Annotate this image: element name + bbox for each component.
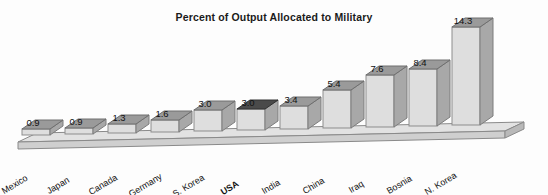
bar-value-label: 5.4 — [317, 78, 351, 89]
bar-value-label: 7.6 — [360, 63, 394, 74]
bar-value-label: 8.4 — [403, 57, 437, 68]
bar-side-face — [480, 18, 493, 125]
chart-container: Percent of Output Allocated to Military … — [0, 0, 548, 195]
bar-front-face — [452, 27, 480, 125]
bar-value-label: 0.9 — [59, 116, 93, 127]
bar-value-label: 3.0 — [188, 98, 222, 109]
bar-value-label: 3.0 — [231, 97, 265, 108]
bar-value-label: 3.4 — [274, 94, 308, 105]
plot-area: 0.9Mexico0.9Japan1.3Canada1.6Germany3.0S… — [0, 0, 548, 195]
bar-value-label: 14.3 — [446, 15, 480, 26]
bar-value-label: 1.3 — [102, 112, 136, 123]
bar-value-label: 0.9 — [16, 117, 50, 128]
bar-value-label: 1.6 — [145, 108, 179, 119]
